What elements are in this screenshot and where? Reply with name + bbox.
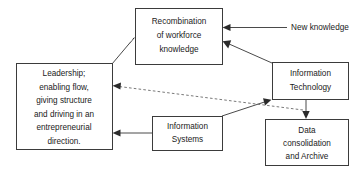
node-information-technology-box[interactable] <box>273 63 349 100</box>
diagram-canvas: Recombination of workforce knowledge Lea… <box>0 0 364 174</box>
node-information-technology[interactable]: Information Technology <box>273 63 349 100</box>
node-information-systems-line-1: Information <box>167 122 208 131</box>
node-leadership-line-3: giving structure <box>36 96 92 105</box>
node-recombination[interactable]: Recombination of workforce knowledge <box>136 9 223 65</box>
node-leadership-line-6: direction. <box>47 137 80 146</box>
node-leadership-line-1: Leadership; <box>43 69 86 78</box>
edge-information-technology-to-data-consolidation <box>302 100 309 119</box>
node-data-consolidation[interactable]: Data consolidation and Archive <box>266 120 349 166</box>
edge-leadership-to-recombination <box>112 37 135 64</box>
node-information-technology-line-2: Technology <box>290 83 332 92</box>
node-recombination-line-1: Recombination <box>152 17 207 26</box>
edge-information-technology-to-recombination <box>223 40 272 63</box>
node-information-technology-line-1: Information <box>290 69 331 78</box>
node-leadership-line-5: entrepreneurial <box>36 123 91 132</box>
edge-new-knowledge-to-recombination <box>223 24 288 31</box>
node-information-systems[interactable]: Information Systems <box>153 117 223 151</box>
node-recombination-line-3: knowledge <box>159 45 199 54</box>
node-information-systems-line-2: Systems <box>172 135 203 144</box>
node-data-consolidation-line-1: Data <box>298 126 316 135</box>
edge-information-systems-to-leadership <box>113 130 153 137</box>
node-data-consolidation-line-3: and Archive <box>286 152 329 161</box>
node-recombination-line-2: of workforce <box>157 31 202 40</box>
node-leadership-line-4: and driving in an <box>34 110 95 119</box>
node-data-consolidation-line-2: consolidation <box>283 139 331 148</box>
node-leadership[interactable]: Leadership; enabling flow, giving struct… <box>17 64 113 150</box>
node-new-knowledge: New knowledge <box>291 23 349 32</box>
diagram-svg: Recombination of workforce knowledge Lea… <box>0 0 364 174</box>
node-leadership-line-2: enabling flow, <box>39 83 89 92</box>
node-new-knowledge-label: New knowledge <box>291 23 349 32</box>
